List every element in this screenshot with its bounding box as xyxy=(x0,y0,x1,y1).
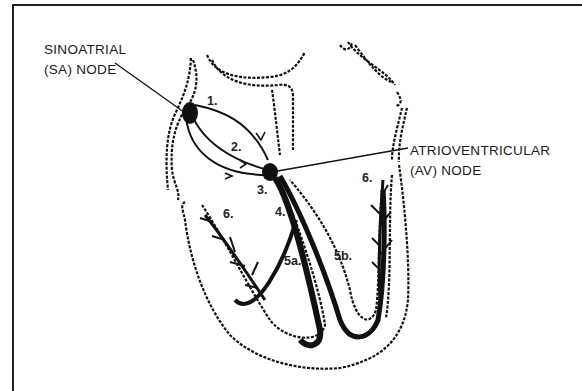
step-4-label: 4. xyxy=(275,205,285,219)
step-1-label: 1. xyxy=(207,94,217,108)
step-6-right-label: 6. xyxy=(362,171,372,185)
step-5a-label: 5a. xyxy=(284,254,301,268)
conduction-pathways xyxy=(186,105,268,175)
leader-lines xyxy=(115,63,408,172)
av-node-label-line1: ATRIOVENTRICULAR xyxy=(410,143,550,159)
step-2-label: 2. xyxy=(231,140,241,154)
sa-node-label-line1: SINOATRIAL xyxy=(44,42,126,58)
step-6-left-label: 6. xyxy=(223,207,233,221)
step-5b-label: 5b. xyxy=(334,249,352,263)
heart-conduction-diagram xyxy=(0,0,582,391)
sa-node-label-line2: (SA) NODE xyxy=(44,62,116,78)
av-node-label-line2: (AV) NODE xyxy=(410,163,481,179)
step-3-label: 3. xyxy=(257,183,267,197)
